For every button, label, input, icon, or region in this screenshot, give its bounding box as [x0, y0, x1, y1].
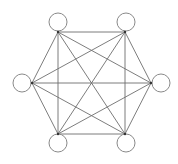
node-anchor-top-left [57, 31, 59, 33]
node-top-right [117, 13, 135, 31]
node-top-left [49, 13, 67, 31]
node-anchor-bottom-right [124, 133, 126, 135]
edge-n1-n3 [58, 32, 151, 83]
node-anchor-bottom-left [57, 133, 59, 135]
node-right [152, 74, 170, 92]
edge-n1-n6 [32, 32, 58, 83]
node-anchor-top-right [124, 31, 126, 33]
node-bottom-left [49, 134, 67, 152]
edge-n3-n5 [58, 83, 151, 134]
edges-group [32, 32, 151, 134]
edge-n2-n6 [32, 32, 125, 83]
node-bottom-right [117, 134, 135, 152]
complete-graph-diagram [0, 0, 178, 164]
edge-n2-n3 [125, 32, 151, 83]
edge-n5-n6 [32, 83, 58, 134]
node-left [13, 74, 31, 92]
edge-n4-n6 [32, 83, 125, 134]
node-anchor-left [31, 82, 33, 84]
node-anchor-right [150, 82, 152, 84]
edge-n3-n4 [125, 83, 151, 134]
